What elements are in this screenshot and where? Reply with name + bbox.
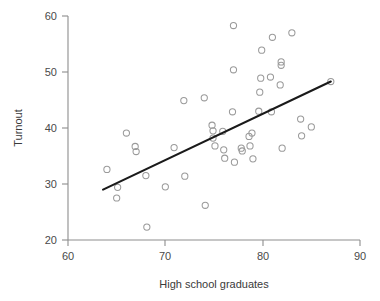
data-point: [256, 108, 262, 114]
y-tick-label-20: 20: [45, 234, 57, 246]
x-tick-label-80: 80: [257, 250, 269, 262]
data-point: [247, 143, 253, 149]
y-tick-label-40: 40: [45, 122, 57, 134]
x-tick-label-70: 70: [159, 250, 171, 262]
data-point: [201, 95, 207, 101]
scatter-plot-figure: 20 30 40 50 60 60 70 80 90 High school g…: [0, 0, 380, 301]
data-point: [144, 224, 150, 230]
data-point: [230, 67, 236, 73]
y-axis-title: Turnout: [12, 109, 24, 147]
data-point: [259, 47, 265, 53]
data-point: [258, 75, 264, 81]
regression-line-layer: [103, 82, 331, 190]
data-point: [182, 173, 188, 179]
data-point: [171, 145, 177, 151]
data-point: [212, 143, 218, 149]
data-point: [229, 109, 235, 115]
data-point: [143, 173, 149, 179]
data-point: [299, 133, 305, 139]
data-point: [277, 82, 283, 88]
data-point: [250, 156, 256, 162]
x-tick-marks: [68, 240, 360, 246]
data-point: [279, 145, 285, 151]
data-point: [308, 124, 314, 130]
data-points-layer: [104, 22, 334, 230]
x-tick-label-60: 60: [62, 250, 74, 262]
data-point: [104, 166, 110, 172]
y-tick-label-30: 30: [45, 178, 57, 190]
data-point: [123, 130, 129, 136]
y-tick-marks: [62, 16, 68, 240]
data-point: [162, 184, 168, 190]
data-point: [257, 89, 263, 95]
data-point: [222, 155, 228, 161]
data-point: [267, 74, 273, 80]
x-axis-title: High school graduates: [159, 278, 269, 290]
data-point: [231, 159, 237, 165]
y-tick-label-60: 60: [45, 10, 57, 22]
data-point: [269, 34, 275, 40]
y-tick-labels: 20 30 40 50 60: [45, 10, 57, 246]
regression-line: [103, 82, 331, 190]
data-point: [221, 147, 227, 153]
x-tick-labels: 60 70 80 90: [62, 250, 366, 262]
data-point: [230, 22, 236, 28]
x-tick-label-90: 90: [354, 250, 366, 262]
data-point: [289, 30, 295, 36]
data-point: [202, 202, 208, 208]
data-point: [115, 184, 121, 190]
data-point: [114, 195, 120, 201]
data-point: [181, 97, 187, 103]
plot-canvas: 20 30 40 50 60 60 70 80 90 High school g…: [0, 0, 380, 301]
y-tick-label-50: 50: [45, 66, 57, 78]
data-point: [298, 116, 304, 122]
